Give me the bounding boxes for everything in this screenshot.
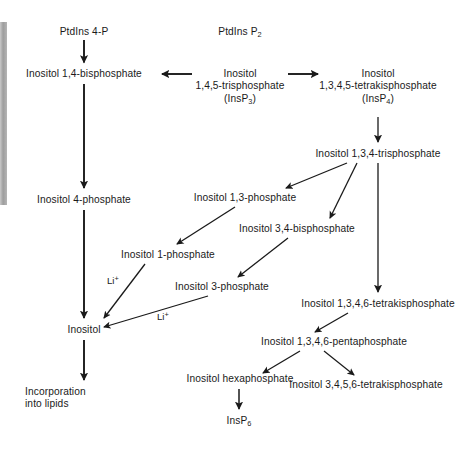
- node-label: Inositol: [67, 324, 100, 335]
- node-ptdins-4-phosphate: PtdIns 4-P: [60, 26, 109, 38]
- node-label: PtdIns P: [218, 26, 257, 37]
- node-label-abbrev: (InsP3): [195, 93, 284, 108]
- node-label: Inositol 1,3,4,6-tetrakisphosphate: [301, 298, 454, 309]
- node-inositol-hexaphosphate: Inositol hexaphosphate: [187, 373, 294, 385]
- node-inositol-3-4-5-6-tetrakisphosphate: Inositol 3,4,5,6-tetrakisphosphate: [289, 379, 442, 391]
- node-inositol-1-3-phosphate: Inositol 1,3-phosphate: [194, 192, 296, 204]
- node-inositol-4-phosphate: Inositol 4-phosphate: [37, 194, 131, 206]
- node-label: Inositol 3,4-bisphosphate: [239, 223, 355, 234]
- node-inositol-1-4-5-trisphosphate: Inositol 1,4,5-trisphosphate (InsP3): [195, 68, 284, 108]
- arrow-ins3p-to-inositol: [104, 296, 208, 327]
- superscript: +: [164, 310, 168, 319]
- node-label: Inositol 3-phosphate: [175, 281, 269, 292]
- node-inositol-1-phosphate: Inositol 1-phosphate: [121, 249, 215, 261]
- node-label: Inositol hexaphosphate: [187, 373, 294, 384]
- arrow-ins134tris-to-ins13p: [286, 163, 347, 188]
- arrow-ins1346penta-to-ins3456tetra: [324, 351, 354, 375]
- arrow-ins13p-to-ins1p: [177, 207, 235, 244]
- inhibitor-label-lithium-lower: Li+: [157, 310, 169, 322]
- arrow-ins1346penta-to-hexa: [263, 351, 300, 373]
- node-inositol-1-3-4-trisphosphate: Inositol 1,3,4-trisphosphate: [315, 148, 440, 160]
- node-label: InsP: [226, 415, 247, 426]
- arrow-ins34bis-to-ins3p: [238, 238, 288, 277]
- subscript: 6: [247, 419, 251, 428]
- node-label: PtdIns 4-P: [60, 26, 109, 37]
- node-label-line2: 1,3,4,5-tetrakisphosphate: [319, 80, 436, 92]
- node-label-line2: 1,4,5-trisphosphate: [195, 80, 284, 92]
- node-inositol-1-3-4-5-tetrakisphosphate: Inositol 1,3,4,5-tetrakisphosphate (InsP…: [319, 68, 436, 108]
- node-label-abbrev: (InsP4): [319, 93, 436, 108]
- node-inositol: Inositol: [67, 324, 100, 336]
- node-label-line2: into lipids: [25, 398, 86, 410]
- superscript: +: [114, 274, 118, 283]
- pathway-diagram: PtdIns 4-P PtdIns P2 Inositol 1,4-bispho…: [0, 0, 468, 453]
- node-label: Inositol 1,4-bisphosphate: [26, 68, 142, 79]
- node-label-line1: Inositol: [319, 68, 436, 80]
- node-label: Inositol 3,4,5,6-tetrakisphosphate: [289, 379, 442, 390]
- subscript: 2: [258, 30, 262, 39]
- node-label: Inositol 1,3,4-trisphosphate: [315, 148, 440, 159]
- node-label-line1: Inositol: [195, 68, 284, 80]
- node-inositol-1-3-4-6-pentaphosphate: Inositol 1,3,4,6-pentaphosphate: [261, 336, 407, 348]
- node-inositol-1-4-bisphosphate: Inositol 1,4-bisphosphate: [26, 68, 142, 80]
- inhibitor-label-lithium-upper: Li+: [107, 274, 119, 286]
- node-label: Inositol 1,3-phosphate: [194, 192, 296, 203]
- arrow-ins1p-to-inositol: [104, 264, 145, 318]
- node-inositol-3-phosphate: Inositol 3-phosphate: [175, 281, 269, 293]
- node-label: Inositol 4-phosphate: [37, 194, 131, 205]
- page-edge-bar: [0, 22, 7, 205]
- node-inositol-3-4-bisphosphate: Inositol 3,4-bisphosphate: [239, 223, 355, 235]
- node-ptdins-p2: PtdIns P2: [218, 26, 262, 41]
- node-label: Inositol 1,3,4,6-pentaphosphate: [261, 336, 407, 347]
- arrow-ins134tris-to-ins34bis: [330, 163, 357, 218]
- node-insp6: InsP6: [226, 415, 251, 430]
- arrow-ins1346tetra-to-ins1346penta: [315, 313, 348, 332]
- node-label-line1: Incorporation: [25, 386, 86, 398]
- node-incorporation-into-lipids: Incorporation into lipids: [25, 386, 86, 411]
- node-label: Inositol 1-phosphate: [121, 249, 215, 260]
- node-inositol-1-3-4-6-tetrakisphosphate: Inositol 1,3,4,6-tetrakisphosphate: [301, 298, 454, 310]
